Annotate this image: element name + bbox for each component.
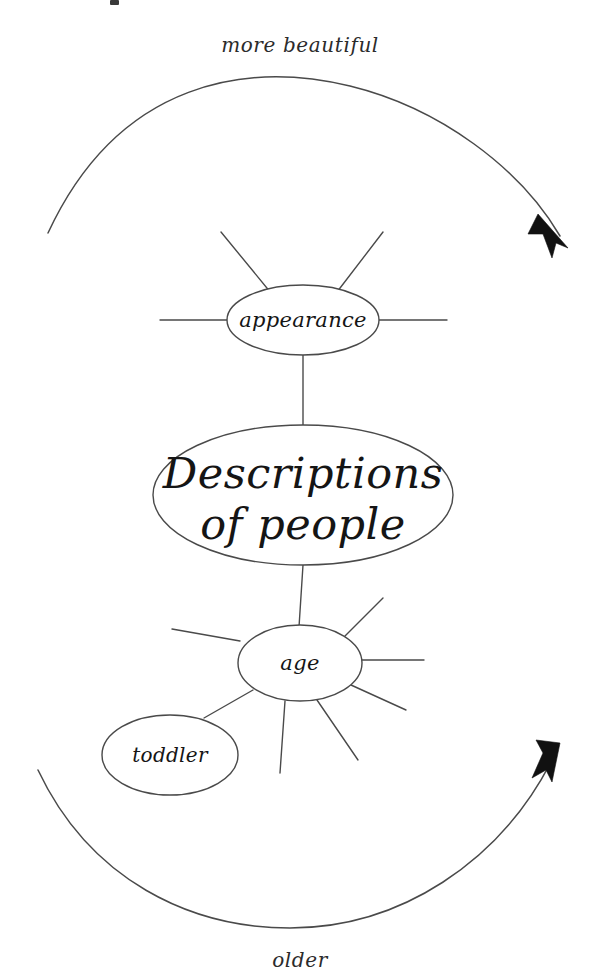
top-axis-label: more beautiful [221,33,379,57]
age-to-center-connector [299,565,303,627]
age-spoke-upper-left [172,629,240,641]
node-center-label-line2: of people [200,499,406,549]
diagram-canvas: appearance Descriptions of people age to… [0,0,595,980]
age-spoke-to-toddler [204,690,253,718]
node-toddler-label: toddler [132,743,209,767]
age-spoke-lower-right-steep [317,700,358,760]
mind-map-svg: appearance Descriptions of people age to… [0,0,595,980]
appearance-spoke-upper-right [337,232,383,292]
clipped-text-artifact [110,0,119,5]
bottom-arc-arrowhead [532,740,560,782]
node-age-label: age [280,651,319,675]
node-appearance-label: appearance [239,308,367,332]
top-arc-arrowhead [528,214,568,258]
age-spoke-bottom [280,701,285,773]
bottom-arc-line [38,760,552,928]
top-arc-line [48,77,560,236]
appearance-spoke-upper-left [221,232,271,293]
age-spoke-upper-right [345,598,383,636]
node-center-label-line1: Descriptions [162,448,444,498]
bottom-axis-label: older [272,948,328,972]
age-spoke-lower-right [351,685,406,710]
